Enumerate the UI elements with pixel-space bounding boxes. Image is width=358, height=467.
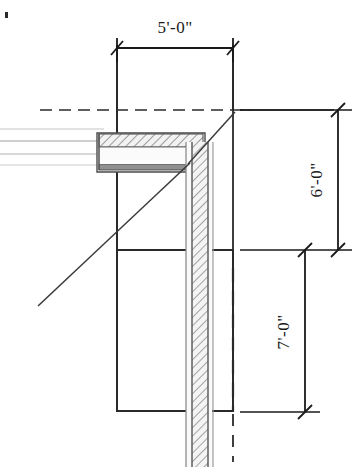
lower-opening-outline [117,250,233,411]
drawing-canvas: 5'-0" 6'-0" 7'-0" [0,0,358,467]
dimension-height-upper: 6'-0" [240,103,352,412]
dimension-width-top: 5'-0" [111,18,239,62]
dimension-label-width: 5'-0" [157,18,192,37]
ghosted-extension-lines [0,129,104,165]
hatched-vertical-wall [186,142,213,467]
architectural-section-drawing: 5'-0" 6'-0" 7'-0" [0,0,358,467]
dimension-label-height-lower: 7'-0" [274,314,293,349]
registration-mark [5,12,8,18]
dimension-label-height-upper: 6'-0" [307,162,326,197]
dimension-height-lower: 7'-0" [240,243,320,419]
